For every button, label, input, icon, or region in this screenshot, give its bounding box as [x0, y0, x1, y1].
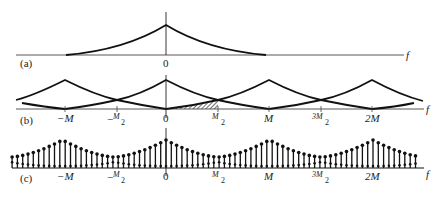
- svg-text:2: 2: [325, 118, 329, 127]
- tick-label-zero-c: 0: [163, 170, 169, 182]
- svg-text:M: M: [211, 170, 220, 179]
- tick-label-M-c: M: [263, 170, 274, 182]
- tick-label-M: M: [263, 112, 274, 124]
- tick-label-half-M-c: M 2: [211, 170, 225, 185]
- panel-c-label: (c): [20, 172, 33, 185]
- panel-c: (c) −M − M 2 0 M 2 M 3M 2 2M f: [10, 128, 431, 185]
- spectrum-copy-zero: [22, 80, 269, 109]
- svg-text:2: 2: [121, 118, 125, 127]
- tick-label-zero: 0: [163, 112, 169, 124]
- panel-b: (b) −M − M 2 0 M 2 M 3M 2 2M f: [16, 75, 431, 127]
- panel-a-zero-label: 0: [163, 57, 169, 69]
- svg-text:2: 2: [325, 176, 329, 185]
- tick-label-2M-c: 2M: [365, 170, 381, 182]
- svg-text:M: M: [112, 112, 121, 121]
- tick-label-neg-half-M: − M 2: [107, 112, 125, 127]
- tick-label-negM: −M: [57, 112, 74, 124]
- svg-text:2: 2: [221, 118, 225, 127]
- svg-text:M: M: [211, 112, 220, 121]
- svg-text:3M: 3M: [311, 170, 324, 179]
- panel-b-label: (b): [20, 114, 33, 127]
- tick-label-neg-half-M-c: − M 2: [107, 170, 125, 185]
- panel-a-label: (a): [20, 57, 33, 70]
- panel-a: (a) 0 f: [16, 12, 411, 70]
- tick-label-three-half-M-c: 3M 2: [311, 170, 329, 185]
- svg-text:2: 2: [221, 176, 225, 185]
- tick-label-three-half-M: 3M 2: [311, 112, 329, 127]
- spectrum-copy-3M-tail: [372, 103, 414, 109]
- tick-label-negM-c: −M: [57, 170, 74, 182]
- svg-text:3M: 3M: [311, 112, 324, 121]
- panel-b-f-label: f: [426, 103, 431, 115]
- sample-stems: [10, 138, 417, 168]
- panel-a-f-label: f: [406, 49, 411, 61]
- tick-label-half-M: M 2: [211, 112, 225, 127]
- panel-c-f-label: f: [426, 168, 431, 180]
- svg-text:M: M: [112, 170, 121, 179]
- spectrum-figure: (a) 0 f (b) −M − M 2 0 M: [0, 0, 441, 197]
- tick-label-2M: 2M: [365, 112, 381, 124]
- svg-text:2: 2: [121, 176, 125, 185]
